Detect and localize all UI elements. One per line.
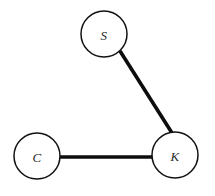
graph-figure: S C K <box>0 0 215 196</box>
node-c-label: C <box>33 150 42 165</box>
node-s-label: S <box>101 28 108 43</box>
graph-canvas: S C K <box>0 0 215 196</box>
edge-s-k <box>120 51 172 133</box>
node-k-label: K <box>170 149 181 164</box>
